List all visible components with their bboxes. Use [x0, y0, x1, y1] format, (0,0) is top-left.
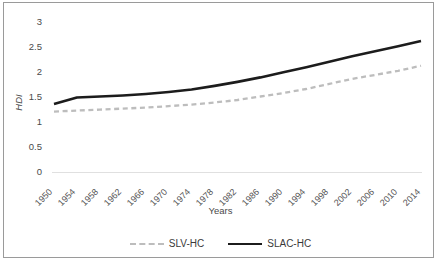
x-axis-title: Years: [0, 205, 441, 216]
legend-item-slv-hc: SLV-HC: [130, 238, 204, 249]
legend-item-slac-hc: SLAC-HC: [228, 238, 311, 249]
chart-svg: [0, 0, 441, 263]
legend-label-slv-hc: SLV-HC: [169, 238, 204, 249]
legend-label-slac-hc: SLAC-HC: [267, 238, 311, 249]
legend-swatch-dashed-icon: [130, 243, 164, 245]
plot-area: 3 2.5 2 1.5 1 0.5 0 HDI 1950 1954 1958 1…: [0, 0, 441, 263]
legend-swatch-solid-icon: [228, 243, 262, 245]
chart-legend: SLV-HC SLAC-HC: [0, 238, 441, 249]
series-line-slv-hc: [54, 66, 421, 112]
series-line-slac-hc: [54, 41, 421, 104]
chart-screenshot: 3 2.5 2 1.5 1 0.5 0 HDI 1950 1954 1958 1…: [0, 0, 441, 263]
